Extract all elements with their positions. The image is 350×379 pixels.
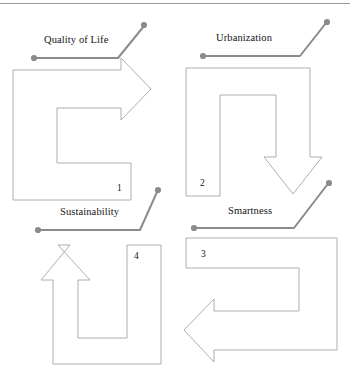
label-sustainability: Sustainability [60,207,119,218]
arrow-quadrant-bottom-left [41,245,161,364]
figure-canvas: Quality of Life Urbanization Sustainabil… [0,0,350,379]
leader-dot-start [200,53,206,59]
leader-dot-end [326,180,332,186]
arrow-quadrant-top-right [186,68,322,196]
label-smartness: Smartness [228,206,272,217]
leader-dot-end [141,22,147,28]
leader-dot-start [35,227,41,233]
leader-dot-end [324,19,330,25]
number-quadrant-bottom-left: 4 [134,252,139,262]
arrow-quadrant-bottom-right [184,238,337,362]
leader-dot-start [31,55,37,61]
number-quadrant-top-left: 1 [117,184,122,194]
arrows-layer [0,0,350,379]
leader-dot-start [191,225,197,231]
label-urbanization: Urbanization [216,33,272,44]
label-quality-of-life: Quality of Life [44,35,108,46]
leader-dot-end [155,187,161,193]
number-quadrant-top-right: 2 [200,179,205,189]
arrow-quadrant-top-left [13,58,151,200]
number-quadrant-bottom-right: 3 [201,250,206,260]
